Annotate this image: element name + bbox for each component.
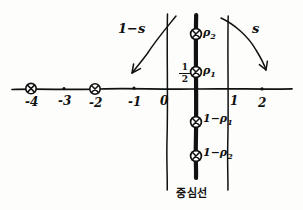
circled-x-marker-minus4: [26, 83, 36, 93]
zero-label-subscript: 1: [210, 69, 216, 79]
one-half-fraction-label: 1 2: [179, 63, 191, 85]
fraction-numerator: 1: [179, 63, 191, 72]
tick-dot-2: [260, 87, 263, 90]
zero-label-subscript: 1: [227, 117, 233, 127]
annotation-one-minus-s: 1−s: [118, 22, 145, 35]
circled-x-marker-one-minus-rho-2: [191, 151, 202, 162]
zero-label-base: 1−ρ: [203, 112, 227, 125]
axis-tick-label-zero: 0: [160, 95, 168, 107]
critical-line-caption: 중심선: [176, 184, 208, 200]
axis-tick-label-two: 2: [258, 97, 266, 109]
axis-tick-label-minus2: -2: [89, 97, 102, 109]
axis-tick-label-minus1: -1: [128, 96, 141, 108]
tick-dot-minus1: [132, 87, 135, 90]
zero-label-one-minus-rho-1: 1−ρ1: [203, 113, 233, 126]
axis-tick-label-one: 1: [230, 95, 238, 107]
fraction-denominator: 2: [179, 75, 191, 84]
zero-label-base: 1−ρ: [203, 146, 227, 159]
circled-x-marker-rho-1: [191, 67, 202, 78]
real-axis-line: [12, 89, 292, 90]
annotation-s: s: [252, 22, 259, 35]
zero-label-subscript: 2: [210, 31, 216, 41]
axis-tick-label-minus3: -3: [58, 95, 71, 107]
zero-label-one-minus-rho-2: 1−ρ2: [203, 147, 233, 160]
figure-canvas: -4 -3 -2 -1 0 1 2 1 2 ρ2 ρ1 1−ρ1 1−ρ2 1−…: [0, 0, 303, 210]
circled-x-marker-minus2: [90, 84, 100, 94]
zero-label-subscript: 2: [227, 151, 233, 161]
zero-label-rho-1: ρ1: [203, 65, 216, 78]
circled-x-marker-one-minus-rho-1: [191, 117, 202, 128]
zero-label-rho-2: ρ2: [203, 27, 216, 40]
axis-tick-label-minus4: -4: [25, 96, 38, 108]
circled-x-marker-rho-2: [191, 29, 202, 40]
re-equals-one-line: [228, 16, 229, 190]
tick-dot-minus3: [62, 87, 65, 90]
